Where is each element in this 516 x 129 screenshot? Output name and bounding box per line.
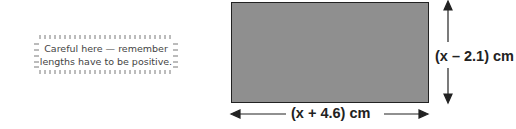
dimension-arrows [0,0,516,129]
width-label: (x + 4.6) cm [291,105,370,121]
height-label: (x – 2.1) cm [435,48,514,64]
